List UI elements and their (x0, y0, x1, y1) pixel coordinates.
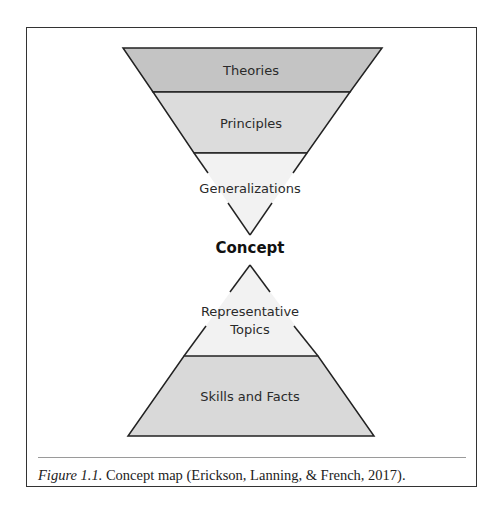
label-generalizations: Generalizations (199, 181, 301, 196)
label-concept: Concept (216, 239, 285, 257)
figure-caption: Figure 1.1. Concept map (Erickson, Lanni… (38, 467, 468, 484)
concept-map-diagram: Theories Principles Generalizations Conc… (0, 0, 500, 511)
label-representative: Representative (201, 304, 299, 319)
label-theories: Theories (222, 63, 279, 78)
label-skills-and-facts: Skills and Facts (200, 389, 300, 404)
caption-text: Concept map (Erickson, Lanning, & French… (102, 467, 405, 483)
label-topics: Topics (229, 322, 270, 337)
figure-number: Figure 1.1. (38, 467, 102, 483)
label-principles: Principles (220, 116, 282, 131)
caption-divider (38, 457, 466, 458)
